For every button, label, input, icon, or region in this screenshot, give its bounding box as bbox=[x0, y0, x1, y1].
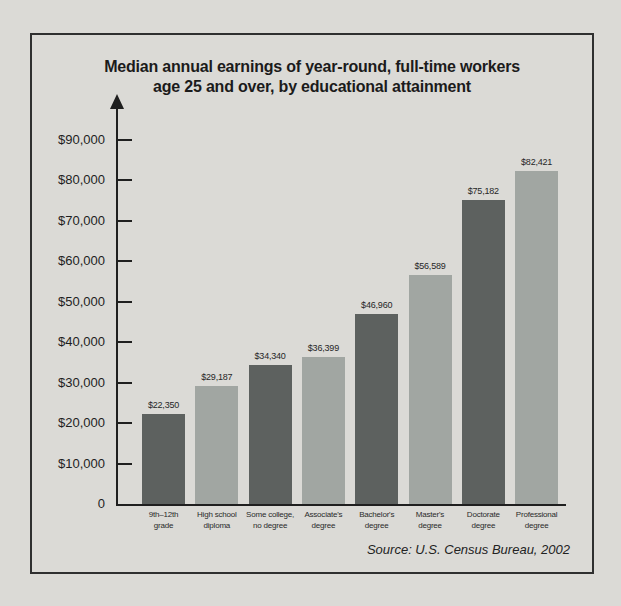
y-axis-tick-label: $60,000 bbox=[32, 253, 105, 269]
bar-4 bbox=[302, 357, 345, 504]
y-axis-tick bbox=[118, 463, 132, 465]
category-label-line: 9th–12th bbox=[136, 510, 192, 521]
bar-value-label: $46,960 bbox=[347, 300, 407, 311]
category-label: Professionaldegree bbox=[509, 510, 565, 531]
category-label-line: diploma bbox=[189, 521, 245, 532]
category-label-line: no degree bbox=[242, 521, 298, 532]
y-axis-tick bbox=[118, 260, 132, 262]
y-axis-tick-label: $20,000 bbox=[32, 415, 105, 431]
y-axis-tick-label: $80,000 bbox=[32, 172, 105, 188]
bar-value-label: $56,589 bbox=[400, 261, 460, 272]
bar-value-label: $82,421 bbox=[507, 157, 567, 168]
y-axis-tick bbox=[118, 341, 132, 343]
category-label-line: degree bbox=[295, 521, 351, 532]
x-axis bbox=[116, 504, 566, 506]
y-axis-tick bbox=[118, 422, 132, 424]
page-background: Median annual earnings of year-round, fu… bbox=[0, 0, 621, 606]
y-axis-tick bbox=[118, 301, 132, 303]
category-label-line: Master's bbox=[402, 510, 458, 521]
y-axis-tick bbox=[118, 179, 132, 181]
y-axis-tick-label: $50,000 bbox=[32, 294, 105, 310]
y-axis bbox=[116, 108, 118, 506]
y-axis-tick-label: $10,000 bbox=[32, 456, 105, 472]
category-label: Doctoratedegree bbox=[455, 510, 511, 531]
category-label-line: Doctorate bbox=[455, 510, 511, 521]
category-label-line: Bachelor's bbox=[349, 510, 405, 521]
bar-6 bbox=[409, 275, 452, 504]
y-axis-tick-label: $40,000 bbox=[32, 334, 105, 350]
bar-1 bbox=[142, 414, 185, 504]
bar-8 bbox=[515, 171, 558, 504]
category-label: Some college,no degree bbox=[242, 510, 298, 531]
chart-frame: Median annual earnings of year-round, fu… bbox=[30, 33, 594, 574]
bar-value-label: $75,182 bbox=[453, 186, 513, 197]
category-label: 9th–12thgrade bbox=[136, 510, 192, 531]
y-axis-tick bbox=[118, 382, 132, 384]
y-axis-tick-label: 0 bbox=[32, 496, 105, 512]
category-label-line: degree bbox=[402, 521, 458, 532]
y-axis-tick-label: $30,000 bbox=[32, 375, 105, 391]
category-label-line: Some college, bbox=[242, 510, 298, 521]
bar-5 bbox=[355, 314, 398, 504]
bar-3 bbox=[249, 365, 292, 504]
bar-2 bbox=[195, 386, 238, 504]
y-axis-tick bbox=[118, 220, 132, 222]
category-label-line: grade bbox=[136, 521, 192, 532]
plot-area: $90,000$80,000$70,000$60,000$50,000$40,0… bbox=[32, 35, 592, 572]
category-label-line: degree bbox=[509, 521, 565, 532]
category-label: Associate'sdegree bbox=[295, 510, 351, 531]
bar-value-label: $22,350 bbox=[134, 400, 194, 411]
category-label: High schooldiploma bbox=[189, 510, 245, 531]
category-label: Bachelor'sdegree bbox=[349, 510, 405, 531]
category-label-line: degree bbox=[455, 521, 511, 532]
bar-7 bbox=[462, 200, 505, 504]
category-label-line: Professional bbox=[509, 510, 565, 521]
y-axis-tick bbox=[118, 139, 132, 141]
y-axis-tick-label: $70,000 bbox=[32, 213, 105, 229]
source-note: Source: U.S. Census Bureau, 2002 bbox=[367, 542, 570, 557]
bar-value-label: $34,340 bbox=[240, 351, 300, 362]
category-label: Master'sdegree bbox=[402, 510, 458, 531]
category-label-line: High school bbox=[189, 510, 245, 521]
category-label-line: Associate's bbox=[295, 510, 351, 521]
y-axis-tick-label: $90,000 bbox=[32, 132, 105, 148]
category-label-line: degree bbox=[349, 521, 405, 532]
bar-value-label: $36,399 bbox=[293, 343, 353, 354]
bar-value-label: $29,187 bbox=[187, 372, 247, 383]
y-axis-arrow-icon bbox=[110, 94, 124, 109]
